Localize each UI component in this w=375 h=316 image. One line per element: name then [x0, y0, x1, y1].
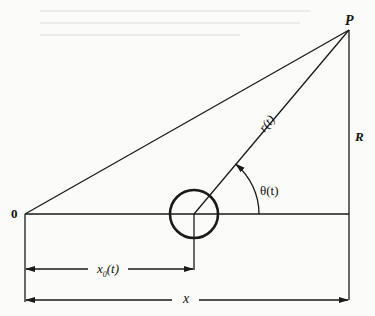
x0-label: x0(t)	[97, 262, 119, 279]
r-distance-label: R	[355, 130, 364, 143]
geometry-figure: P 0 R r(t) θ(t) x0(t) x	[0, 0, 375, 316]
hypotenuse-line	[25, 30, 349, 214]
origin-label: 0	[11, 207, 18, 220]
angle-arc	[236, 164, 259, 214]
x0-suffix: (t)	[107, 261, 119, 276]
x-distance-label: x	[183, 292, 189, 306]
angle-label: θ(t)	[260, 184, 279, 197]
diagram-svg	[0, 0, 375, 316]
point-p-label: P	[345, 14, 354, 28]
